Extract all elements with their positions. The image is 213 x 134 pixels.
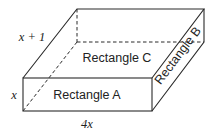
prism-diagram: Rectangle A Rectangle C Rectangle B x + … (0, 0, 213, 134)
face-label-rectangle-c: Rectangle C (83, 51, 152, 65)
dimension-label-depth: x + 1 (18, 30, 45, 44)
dimension-label-length: 4x (81, 117, 93, 131)
dimension-label-height: x (10, 88, 17, 102)
face-label-rectangle-a: Rectangle A (53, 88, 121, 102)
